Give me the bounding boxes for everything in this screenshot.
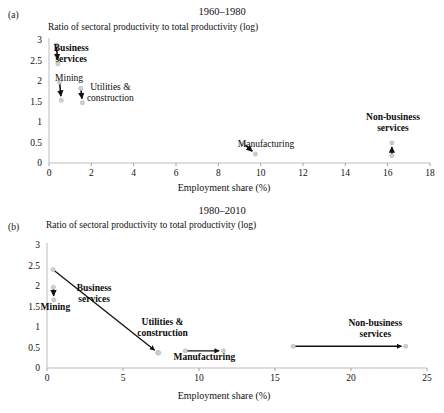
end-point-marker bbox=[390, 141, 394, 145]
series-label: Non-businessservices bbox=[348, 318, 402, 339]
series-label: Businessservices bbox=[54, 43, 89, 64]
y-tick-label: 3 bbox=[37, 35, 42, 45]
y-tick-label: 1.5 bbox=[30, 97, 42, 107]
x-tick-label: 14 bbox=[341, 168, 351, 178]
x-tick-label: 2 bbox=[89, 168, 94, 178]
x-tick-label: 8 bbox=[216, 168, 221, 178]
y-tick-label: 0.5 bbox=[30, 138, 42, 148]
end-point-marker bbox=[80, 101, 84, 105]
start-point-marker bbox=[291, 344, 295, 348]
data-series-utilities-construction: Utilities &construction bbox=[137, 317, 188, 355]
start-point-marker bbox=[390, 154, 394, 158]
y-tick-label: 0.5 bbox=[28, 343, 40, 353]
data-series-business-services: Businessservices bbox=[54, 43, 89, 66]
y-tick-label: 1 bbox=[37, 117, 42, 127]
series-label: Non-businessservices bbox=[366, 112, 420, 133]
y-tick-label: 2 bbox=[35, 281, 40, 291]
x-tick-label: 12 bbox=[298, 168, 308, 178]
y-tick-label: 1 bbox=[35, 322, 40, 332]
data-series-non-business-services: Non-businessservices bbox=[366, 112, 420, 158]
data-series-manufacturing: Manufacturing bbox=[173, 349, 235, 363]
panel-a: (a) 1960–1980 Ratio of sectoral producti… bbox=[0, 0, 444, 206]
x-tick-label: 6 bbox=[174, 168, 179, 178]
x-tick-label: 20 bbox=[346, 373, 356, 383]
y-tick-label: 3 bbox=[35, 240, 40, 250]
panel-a-plot: 02468101214161800.511.522.53Businessserv… bbox=[0, 0, 444, 206]
x-tick-label: 15 bbox=[270, 373, 280, 383]
x-tick-label: 25 bbox=[422, 373, 432, 383]
x-tick-label: 16 bbox=[383, 168, 393, 178]
x-tick-label: 4 bbox=[131, 168, 136, 178]
y-tick-label: 2.5 bbox=[28, 261, 40, 271]
start-point-marker bbox=[51, 285, 55, 289]
figure-container: (a) 1960–1980 Ratio of sectoral producti… bbox=[0, 0, 444, 413]
y-tick-label: 2.5 bbox=[30, 56, 42, 66]
start-point-marker bbox=[79, 86, 83, 90]
x-tick-label: 10 bbox=[256, 168, 266, 178]
data-series-mining: Mining bbox=[41, 285, 71, 312]
series-label: Manufacturing bbox=[173, 352, 235, 362]
series-label: Mining bbox=[55, 73, 83, 83]
y-tick-label: 0 bbox=[35, 363, 40, 373]
transition-arrow bbox=[81, 91, 82, 99]
start-point-marker bbox=[51, 268, 55, 272]
data-series-non-business-services: Non-businessservices bbox=[291, 318, 408, 349]
data-series-manufacturing: Manufacturing bbox=[238, 139, 295, 156]
y-tick-label: 0 bbox=[37, 158, 42, 168]
end-point-marker bbox=[253, 152, 257, 156]
x-tick-label: 0 bbox=[47, 168, 52, 178]
series-label: Mining bbox=[41, 302, 71, 312]
end-point-marker bbox=[59, 98, 63, 102]
panel-b: (b) 1980–2010 Ratio of sectoral producti… bbox=[0, 200, 444, 413]
series-label: Manufacturing bbox=[238, 139, 295, 149]
x-tick-label: 18 bbox=[425, 168, 435, 178]
data-series-utilities-construction: Utilities &construction bbox=[79, 82, 134, 104]
series-label: Utilities &construction bbox=[87, 82, 134, 103]
x-tick-label: 5 bbox=[121, 373, 126, 383]
end-point-marker bbox=[157, 351, 161, 355]
x-tick-label: 0 bbox=[45, 373, 50, 383]
series-label: Utilities &construction bbox=[137, 317, 188, 338]
y-tick-label: 1.5 bbox=[28, 302, 40, 312]
x-tick-label: 10 bbox=[194, 373, 204, 383]
panel-b-plot: 051015202500.511.522.53BusinessservicesM… bbox=[0, 200, 444, 413]
y-tick-label: 2 bbox=[37, 76, 42, 86]
transition-arrow bbox=[60, 84, 61, 96]
end-point-marker bbox=[404, 344, 408, 348]
series-label: Businessservices bbox=[77, 283, 112, 304]
